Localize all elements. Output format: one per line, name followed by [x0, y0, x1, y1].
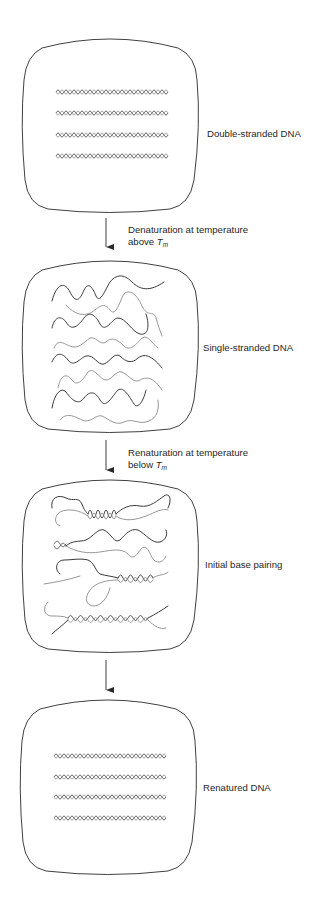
renaturation-line1: Renaturation at temperature: [128, 447, 248, 459]
stage-box-double-stranded: [22, 39, 198, 213]
label-single-stranded: Single-stranded DNA: [203, 342, 293, 354]
stage-box-renatured: [20, 700, 196, 875]
stage-box-initial-base-pairing: [22, 480, 198, 653]
label-renatured: Renatured DNA: [203, 782, 271, 794]
stage-box-single-stranded: [22, 261, 198, 433]
tm-subscript: m: [163, 241, 168, 248]
denaturation-prefix: above: [128, 236, 157, 247]
single-strands-group: [52, 276, 164, 423]
label-initial-base-pairing: Initial base pairing: [205, 559, 282, 571]
renaturation-line2: below Tm: [128, 459, 248, 474]
denaturation-line1: Denaturation at temperature: [128, 224, 248, 236]
tm-subscript: m: [162, 464, 167, 471]
label-denaturation: Denaturation at temperature above Tm: [128, 224, 248, 251]
partial-pairing-group: [44, 495, 170, 634]
label-double-stranded: Double-stranded DNA: [207, 128, 301, 140]
double-helix-group: [56, 90, 168, 158]
label-renaturation: Renaturation at temperature below Tm: [128, 447, 248, 474]
renatured-helix-group: [54, 754, 166, 820]
denaturation-line2: above Tm: [128, 236, 248, 251]
renaturation-prefix: below: [128, 459, 156, 470]
